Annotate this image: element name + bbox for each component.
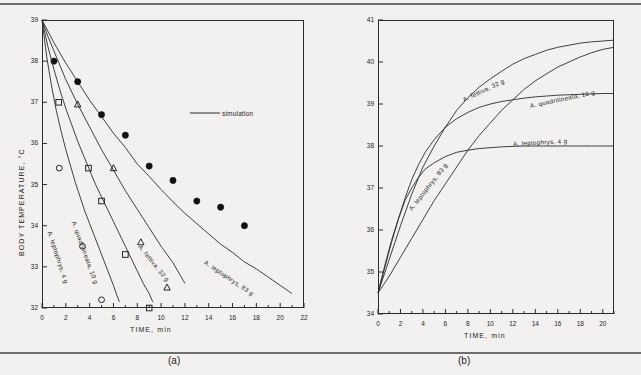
x-tick-label: 4 (81, 314, 99, 321)
x-tick-label: 16 (224, 314, 242, 321)
x-tick-label: 22 (295, 314, 313, 321)
y-tick-label: 41 (358, 16, 374, 23)
panel-a-caption: (a) (168, 355, 180, 366)
x-tick-label: 12 (504, 320, 522, 327)
panel-a-x-axis-title: TIME, min (130, 326, 172, 333)
figure-container: BODY TEMPERATURE, °C TIME, min simulatio… (0, 6, 641, 351)
y-tick-label: 35 (358, 268, 374, 275)
x-tick-label: 20 (594, 320, 612, 327)
x-tick-label: 8 (128, 314, 146, 321)
y-tick-label: 39 (358, 100, 374, 107)
top-divider-rule (0, 3, 641, 5)
x-tick-label: 2 (57, 314, 75, 321)
x-tick-label: 14 (200, 314, 218, 321)
x-tick-label: 10 (152, 314, 170, 321)
x-tick-label: 6 (104, 314, 122, 321)
panel-a-legend-label: simulation (222, 110, 253, 117)
x-tick-label: 18 (247, 314, 265, 321)
y-tick-label: 38 (22, 57, 38, 64)
bottom-divider-rule (0, 352, 641, 354)
y-tick-label: 37 (22, 98, 38, 105)
y-tick-label: 40 (358, 58, 374, 65)
x-tick-label: 0 (33, 314, 51, 321)
panel-a-y-axis-title: BODY TEMPERATURE, °C (18, 148, 25, 256)
x-tick-label: 18 (571, 320, 589, 327)
panel-b: BODY TEMPERATURE, °C TIME, min 024681012… (330, 6, 641, 351)
x-tick-label: 14 (526, 320, 544, 327)
y-tick-label: 38 (358, 142, 374, 149)
x-tick-label: 10 (481, 320, 499, 327)
y-tick-label: 33 (22, 263, 38, 270)
y-tick-label: 35 (22, 181, 38, 188)
y-tick-label: 36 (22, 139, 38, 146)
x-tick-label: 12 (176, 314, 194, 321)
panel-a: BODY TEMPERATURE, °C TIME, min simulatio… (0, 6, 330, 351)
y-tick-label: 37 (358, 184, 374, 191)
y-tick-label: 32 (22, 304, 38, 311)
panel-a-plot-frame (42, 20, 304, 308)
panel-b-x-axis-title: TIME, min (464, 332, 506, 339)
y-tick-label: 36 (358, 226, 374, 233)
panel-b-plot-frame (378, 20, 614, 314)
y-tick-label: 34 (358, 310, 374, 317)
x-tick-label: 2 (391, 320, 409, 327)
x-tick-label: 0 (369, 320, 387, 327)
y-tick-label: 39 (22, 16, 38, 23)
panel-b-caption: (b) (458, 355, 470, 366)
x-tick-label: 4 (414, 320, 432, 327)
x-tick-label: 20 (271, 314, 289, 321)
y-tick-label: 34 (22, 222, 38, 229)
x-tick-label: 16 (549, 320, 567, 327)
x-tick-label: 8 (459, 320, 477, 327)
x-tick-label: 6 (436, 320, 454, 327)
